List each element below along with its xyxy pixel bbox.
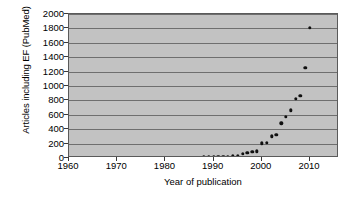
gridline — [69, 14, 337, 15]
data-point — [226, 155, 229, 157]
x-axis-title: Year of publication — [68, 176, 338, 187]
data-point — [231, 155, 234, 157]
gridline — [69, 43, 337, 44]
data-point — [279, 122, 282, 125]
y-tick-mark — [64, 13, 68, 14]
x-tick-label: 1970 — [94, 160, 138, 171]
x-tick-label: 1990 — [191, 160, 235, 171]
data-point — [251, 150, 254, 153]
data-point — [304, 66, 307, 69]
y-tick-label: 1000 — [4, 81, 64, 90]
gridline — [69, 129, 337, 130]
data-point — [222, 155, 225, 157]
data-point — [178, 156, 181, 157]
x-tick-mark — [261, 157, 262, 161]
y-tick-label: 600 — [4, 109, 64, 118]
data-point — [236, 154, 239, 157]
y-tick-label: 200 — [4, 138, 64, 147]
x-tick-mark — [116, 157, 117, 161]
plot-area — [68, 13, 338, 157]
y-tick-mark — [64, 143, 68, 144]
data-point — [207, 156, 210, 157]
data-point — [183, 156, 186, 157]
gridline — [69, 72, 337, 73]
y-tick-label: 800 — [4, 95, 64, 104]
y-tick-label: 400 — [4, 124, 64, 133]
data-point — [111, 156, 114, 157]
y-tick-label: 1600 — [4, 37, 64, 46]
gridline — [69, 115, 337, 116]
y-tick-mark — [64, 42, 68, 43]
data-point — [125, 156, 128, 157]
y-tick-mark — [64, 128, 68, 129]
y-tick-mark — [64, 114, 68, 115]
y-tick-label: 1800 — [4, 23, 64, 32]
x-tick-mark — [68, 157, 69, 161]
x-tick-label: 1960 — [46, 160, 90, 171]
data-point — [275, 133, 278, 136]
data-point — [284, 115, 287, 118]
y-tick-mark — [64, 56, 68, 57]
data-point — [193, 156, 196, 157]
gridline — [69, 100, 337, 101]
data-point — [289, 108, 292, 111]
y-tick-label: 1400 — [4, 52, 64, 61]
y-tick-mark — [64, 85, 68, 86]
x-tick-mark — [164, 157, 165, 161]
data-point — [202, 156, 205, 157]
data-point — [217, 155, 220, 157]
y-tick-label: 2000 — [4, 9, 64, 18]
data-point — [255, 150, 258, 153]
gridline — [69, 28, 337, 29]
y-tick-mark — [64, 99, 68, 100]
data-point — [299, 94, 302, 97]
data-point — [270, 135, 273, 138]
chart-figure: Articles including EF (PubMed) 020040060… — [0, 0, 349, 210]
y-tick-mark — [64, 71, 68, 72]
y-tick-mark — [64, 27, 68, 28]
x-tick-label: 2010 — [287, 160, 331, 171]
gridline — [69, 57, 337, 58]
gridline — [69, 86, 337, 87]
x-tick-mark — [309, 157, 310, 161]
x-tick-mark — [213, 157, 214, 161]
x-tick-label: 1980 — [142, 160, 186, 171]
data-point — [241, 152, 244, 155]
y-tick-label: 1200 — [4, 66, 64, 75]
x-tick-label: 2000 — [239, 160, 283, 171]
data-point — [246, 151, 249, 154]
gridline — [69, 144, 337, 145]
